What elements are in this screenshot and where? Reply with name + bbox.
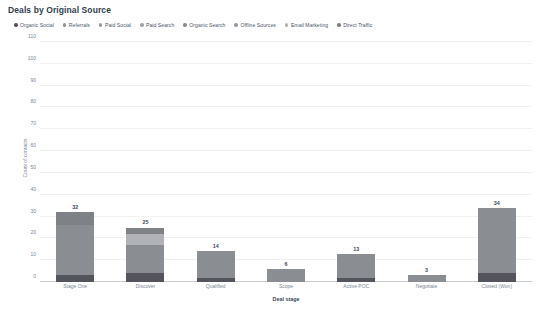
legend-item-label: Organic Search <box>189 22 225 28</box>
bar-slot: 34 <box>462 42 532 282</box>
legend-item[interactable]: Paid Social <box>99 22 131 28</box>
legend-item-label: Paid Social <box>105 22 131 28</box>
bar-segment[interactable] <box>126 273 164 282</box>
bar-value-label: 14 <box>197 243 235 249</box>
bar-segment[interactable] <box>408 275 446 282</box>
bar-segment[interactable] <box>337 278 375 282</box>
legend-item[interactable]: Offline Sources <box>234 22 275 28</box>
bar-segment[interactable] <box>126 245 164 273</box>
legend-item[interactable]: Paid Search <box>140 22 174 28</box>
bar-slot: 13 <box>321 42 391 282</box>
legend-item[interactable]: Referrals <box>63 22 90 28</box>
bar-value-label: 3 <box>408 267 446 273</box>
bar-slot: 14 <box>181 42 251 282</box>
chart-container: Deals by Original Source Organic SocialR… <box>0 0 539 316</box>
y-axis-tick-label: 10 <box>30 251 36 257</box>
chart-legend: Organic SocialReferralsPaid SocialPaid S… <box>14 22 372 28</box>
y-axis-tick-label: 80 <box>30 98 36 104</box>
legend-swatch-icon <box>285 23 289 27</box>
stacked-bar[interactable]: 14 <box>197 251 235 282</box>
x-axis-tick-label: Closed (Won) <box>462 283 532 289</box>
x-axis-tick-label: Qualified <box>181 283 251 289</box>
legend-swatch-icon <box>63 23 67 27</box>
bar-slot: 32 <box>40 42 110 282</box>
y-axis-tick-label: 110 <box>28 33 36 39</box>
stacked-bar[interactable]: 25 <box>126 227 164 282</box>
legend-swatch-icon <box>234 23 238 27</box>
plot-area: 0102030405060708090100110 322514613334 <box>40 42 532 282</box>
bar-slot: 25 <box>110 42 180 282</box>
legend-item-label: Offline Sources <box>240 22 275 28</box>
y-axis-tick-label: 50 <box>30 164 36 170</box>
bar-segment[interactable] <box>478 208 516 273</box>
y-axis-tick-label: 90 <box>30 77 36 83</box>
legend-item-label: Referrals <box>69 22 90 28</box>
legend-item-label: Direct Traffic <box>343 22 372 28</box>
x-axis-tick-label: Scope <box>251 283 321 289</box>
bar-slot: 6 <box>251 42 321 282</box>
legend-swatch-icon <box>337 23 341 27</box>
x-axis-tick-label: Stage One <box>40 283 110 289</box>
legend-swatch-icon <box>183 23 187 27</box>
bar-segment[interactable] <box>197 251 235 277</box>
y-axis-tick-label: 30 <box>30 208 36 214</box>
x-axis-tick-label: Discover <box>110 283 180 289</box>
stacked-bar[interactable]: 3 <box>408 275 446 282</box>
legend-item-label: Email Marketing <box>291 22 328 28</box>
legend-item-label: Paid Search <box>146 22 174 28</box>
y-axis-tick-label: 0 <box>33 273 36 279</box>
y-axis-tick-label: 60 <box>30 142 36 148</box>
bar-group: 322514613334 <box>40 42 532 282</box>
bar-segment[interactable] <box>337 254 375 278</box>
bar-value-label: 6 <box>267 261 305 267</box>
x-axis-ticks: Stage OneDiscoverQualifiedScopeActive PO… <box>40 283 532 289</box>
legend-item-label: Organic Social <box>20 22 54 28</box>
bar-slot: 3 <box>391 42 461 282</box>
bar-segment[interactable] <box>126 234 164 245</box>
bar-value-label: 13 <box>337 246 375 252</box>
stacked-bar[interactable]: 34 <box>478 208 516 282</box>
stacked-bar[interactable]: 13 <box>337 254 375 282</box>
stacked-bar[interactable]: 6 <box>267 269 305 282</box>
legend-swatch-icon <box>14 23 18 27</box>
y-axis-tick-label: 20 <box>30 229 36 235</box>
legend-item[interactable]: Email Marketing <box>285 22 328 28</box>
bar-value-label: 25 <box>126 219 164 225</box>
bar-value-label: 32 <box>56 204 94 210</box>
y-axis-title: Count of contacts <box>22 139 28 178</box>
legend-item[interactable]: Organic Social <box>14 22 54 28</box>
stacked-bar[interactable]: 32 <box>56 212 94 282</box>
chart-title: Deals by Original Source <box>8 5 111 15</box>
bar-segment[interactable] <box>267 269 305 282</box>
y-axis-tick-label: 40 <box>30 186 36 192</box>
bar-value-label: 34 <box>478 200 516 206</box>
bar-segment[interactable] <box>56 212 94 225</box>
bar-segment[interactable] <box>56 225 94 275</box>
legend-item[interactable]: Direct Traffic <box>337 22 372 28</box>
x-axis-tick-label: Active POC <box>321 283 391 289</box>
y-axis-tick-label: 100 <box>28 55 36 61</box>
y-axis-tick-label: 70 <box>30 120 36 126</box>
x-axis-tick-label: Negotiate <box>391 283 461 289</box>
legend-swatch-icon <box>140 23 144 27</box>
x-axis-title: Deal stage <box>40 296 532 302</box>
bar-segment[interactable] <box>56 275 94 282</box>
legend-item[interactable]: Organic Search <box>183 22 225 28</box>
bar-segment[interactable] <box>197 278 235 282</box>
bar-segment[interactable] <box>478 273 516 282</box>
legend-swatch-icon <box>99 23 103 27</box>
